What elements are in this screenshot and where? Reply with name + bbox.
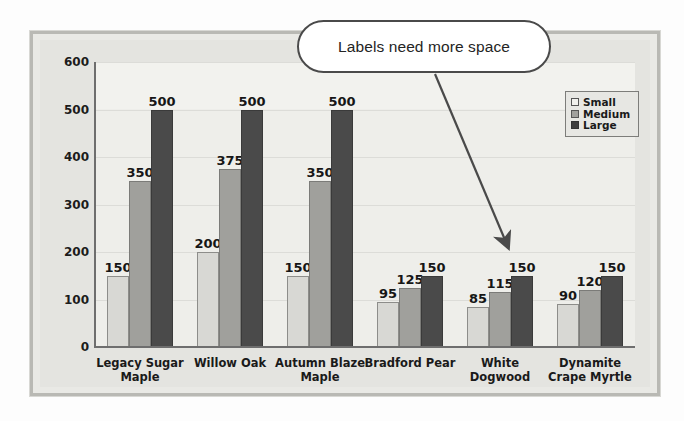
bar-value-label: 150: [593, 261, 631, 274]
bar-large: [331, 110, 353, 348]
category-label-line: Willow Oak: [179, 356, 281, 370]
y-axis-tick: 0: [45, 341, 89, 353]
bar-value-label: 150: [503, 261, 541, 274]
legend-swatch-icon: [571, 98, 579, 106]
category-label-line: Autumn Blaze: [269, 356, 371, 370]
bar-medium: [399, 288, 421, 347]
category-label: Willow Oak: [179, 356, 281, 370]
scanned-page: 1503505002003755001503505009512515085115…: [0, 0, 684, 421]
category-label-line: Bradford Pear: [359, 356, 461, 370]
bar-group: 200375500: [185, 62, 275, 347]
y-axis-tick: 600: [45, 56, 89, 68]
legend-item-medium: Medium: [571, 109, 633, 120]
bar-large: [421, 276, 443, 347]
legend: SmallMediumLarge: [565, 91, 639, 137]
category-label-line: White: [449, 356, 551, 370]
callout-bubble: Labels need more space: [297, 20, 551, 73]
legend-label: Medium: [583, 109, 630, 120]
legend-swatch-icon: [571, 121, 579, 129]
y-axis-tick-labels: 0100200300400500600: [37, 34, 89, 399]
category-label-line: Maple: [89, 370, 191, 384]
bar-medium: [579, 290, 601, 347]
category-label: Legacy SugarMaple: [89, 356, 191, 384]
x-axis-line: [94, 346, 635, 348]
bar-large: [511, 276, 533, 347]
chart-frame: 1503505002003755001503505009512515085115…: [30, 31, 660, 396]
bar-large: [241, 110, 263, 348]
legend-item-small: Small: [571, 97, 633, 108]
y-axis-tick: 300: [45, 199, 89, 211]
bar-small: [467, 307, 489, 347]
bar-small: [557, 304, 579, 347]
y-axis-tick: 400: [45, 151, 89, 163]
bar-value-label: 500: [323, 95, 361, 108]
y-axis-tick: 200: [45, 246, 89, 258]
bar-small: [107, 276, 129, 347]
plot-area: 1503505002003755001503505009512515085115…: [95, 62, 635, 347]
bar-value-label: 500: [143, 95, 181, 108]
y-axis-line: [94, 62, 96, 348]
legend-label: Large: [583, 120, 617, 131]
category-label-line: Maple: [269, 370, 371, 384]
bar-group: 150350500: [95, 62, 185, 347]
bar-medium: [129, 181, 151, 347]
bar-medium: [219, 169, 241, 347]
bar-medium: [309, 181, 331, 347]
category-label-line: Dogwood: [449, 370, 551, 384]
category-label-line: Crape Myrtle: [539, 370, 641, 384]
bar-group: 150350500: [275, 62, 365, 347]
category-label: Autumn BlazeMaple: [269, 356, 371, 384]
category-label-line: Dynamite: [539, 356, 641, 370]
category-label: WhiteDogwood: [449, 356, 551, 384]
y-axis-tick: 500: [45, 104, 89, 116]
category-label: Bradford Pear: [359, 356, 461, 370]
legend-swatch-icon: [571, 110, 579, 118]
y-axis-tick: 100: [45, 294, 89, 306]
callout-text: Labels need more space: [338, 38, 510, 56]
bar-large: [601, 276, 623, 347]
bar-small: [377, 302, 399, 347]
bar-group: 85115150: [455, 62, 545, 347]
bar-medium: [489, 292, 511, 347]
bar-small: [197, 252, 219, 347]
bar-value-label: 500: [233, 95, 271, 108]
bar-value-label: 150: [413, 261, 451, 274]
legend-label: Small: [583, 97, 616, 108]
bar-group: 95125150: [365, 62, 455, 347]
bar-small: [287, 276, 309, 347]
category-label-line: Legacy Sugar: [89, 356, 191, 370]
category-label: DynamiteCrape Myrtle: [539, 356, 641, 384]
legend-item-large: Large: [571, 120, 633, 131]
bar-large: [151, 110, 173, 348]
